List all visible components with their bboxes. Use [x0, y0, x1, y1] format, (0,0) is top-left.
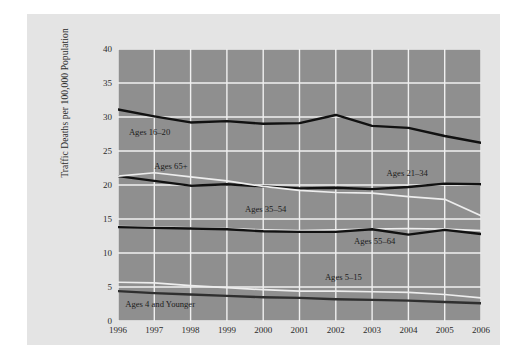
series-label-3: Ages 21–34 — [387, 169, 428, 178]
y-tick-label: 15 — [86, 215, 112, 224]
chart-page: Traffic Deaths per 100,000 Population 05… — [0, 0, 528, 359]
series-label-4: Ages 35–54 — [245, 205, 286, 214]
x-axis-ticks: 1996199719981999200020012002200320042005… — [118, 326, 481, 346]
y-axis-ticks: 0510152025303540 — [82, 49, 118, 321]
figure-panel: Traffic Deaths per 100,000 Population 05… — [27, 14, 500, 345]
series-label-1: Ages 16–20 — [129, 128, 170, 137]
series-label-6: Ages 5–15 — [325, 273, 362, 282]
y-tick-label: 20 — [86, 181, 112, 190]
series-label-7: Ages 4 and Younger — [125, 300, 195, 309]
series-label-2: Ages 65+ — [154, 162, 187, 171]
plot-svg — [118, 49, 481, 321]
y-tick-label: 10 — [86, 249, 112, 258]
y-axis-label: Traffic Deaths per 100,000 Population — [60, 8, 70, 198]
y-tick-label: 30 — [86, 113, 112, 122]
x-tick-label: 2006 — [459, 326, 503, 335]
y-tick-label: 25 — [86, 147, 112, 156]
plot-area: Ages 16–20Ages 65+Ages 21–34Ages 35–54Ag… — [118, 49, 481, 321]
y-tick-label: 5 — [86, 283, 112, 292]
y-tick-label: 40 — [86, 45, 112, 54]
y-tick-label: 35 — [86, 79, 112, 88]
series-label-5: Ages 55–64 — [354, 237, 395, 246]
